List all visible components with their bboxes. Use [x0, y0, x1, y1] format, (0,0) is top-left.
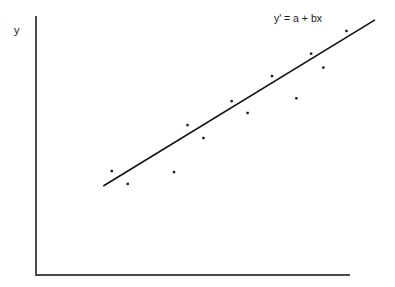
data-point: [127, 183, 129, 185]
y-axis-label: y: [14, 24, 20, 36]
data-point: [173, 171, 175, 173]
scatter-plot-figure: y y' = a + bx: [0, 0, 395, 287]
regression-equation-label: y' = a + bx: [274, 12, 323, 24]
data-point: [322, 66, 324, 68]
data-point: [186, 124, 188, 126]
data-points-group: [111, 30, 348, 185]
data-point: [202, 137, 204, 139]
data-point: [230, 100, 232, 102]
data-point: [111, 170, 113, 172]
data-point: [345, 30, 347, 32]
data-point: [310, 52, 312, 54]
data-point: [271, 75, 273, 77]
regression-line: [103, 20, 375, 186]
data-point: [246, 112, 248, 114]
data-point: [295, 97, 297, 99]
